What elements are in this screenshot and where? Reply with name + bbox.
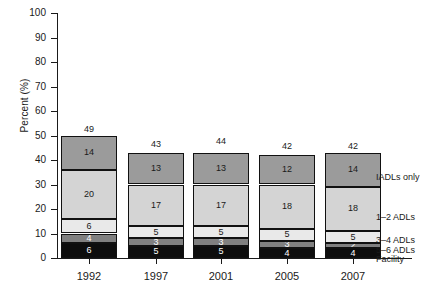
bar-segment-value: 2	[350, 243, 355, 248]
y-axis-tick	[51, 136, 57, 137]
bar-total-label: 44	[193, 137, 249, 146]
bar-total-label: 49	[61, 125, 117, 134]
bar-segment[interactable]: 4	[61, 234, 117, 244]
bar-segment[interactable]: 3	[193, 238, 249, 245]
y-axis-tick	[51, 234, 57, 235]
legend-item: 1–2 ADLs	[376, 212, 415, 222]
bar-segment-value: 14	[348, 165, 358, 174]
bar-segment-value: 3	[218, 238, 223, 245]
bar-segment-value: 5	[153, 228, 158, 237]
bar-segment[interactable]: 2	[325, 243, 381, 248]
bar-segment[interactable]: 3	[128, 238, 184, 245]
bar-segment-value: 4	[284, 249, 289, 258]
bar-segment[interactable]: 3	[259, 241, 315, 248]
bar-segment[interactable]: 20	[61, 170, 117, 219]
bar-segment[interactable]: 13	[193, 153, 249, 185]
y-axis-tick-label: 0	[6, 253, 46, 263]
bar-1992[interactable]: 6462014	[61, 13, 117, 258]
bar-2005[interactable]: 4351812	[259, 13, 315, 258]
bar-segment-value: 18	[348, 204, 358, 213]
bar-segment[interactable]: 5	[193, 226, 249, 238]
y-axis-tick-label: 10	[6, 229, 46, 239]
bar-segment-value: 3	[284, 241, 289, 248]
bar-segment[interactable]: 5	[128, 246, 184, 258]
y-axis-tick	[51, 160, 57, 161]
y-axis-tick-label: 70	[6, 82, 46, 92]
y-axis-tick	[51, 13, 57, 14]
y-axis-line	[57, 13, 58, 259]
bar-1997[interactable]: 5351713	[128, 13, 184, 258]
bar-segment[interactable]: 14	[61, 136, 117, 170]
y-axis-tick-label: 60	[6, 106, 46, 116]
bar-segment[interactable]: 4	[325, 248, 381, 258]
x-axis-tick	[221, 258, 222, 264]
x-axis-tick	[287, 258, 288, 264]
bar-segment-value: 5	[284, 230, 289, 239]
x-axis-tick	[353, 258, 354, 264]
bar-segment-value: 6	[86, 222, 91, 231]
legend-item: IADLs only	[376, 172, 420, 182]
bar-segment-value: 4	[350, 249, 355, 258]
x-axis-tick	[89, 258, 90, 264]
y-axis-tick	[51, 258, 57, 259]
y-axis-tick-label: 50	[6, 131, 46, 141]
bar-segment-value: 5	[153, 247, 158, 256]
bar-segment[interactable]: 5	[325, 231, 381, 243]
y-axis-tick-label: 80	[6, 57, 46, 67]
bar-segment-value: 14	[84, 148, 94, 157]
y-axis-tick	[51, 185, 57, 186]
bar-segment[interactable]: 17	[193, 185, 249, 227]
bar-segment-value: 3	[153, 238, 158, 245]
bar-segment[interactable]: 12	[259, 155, 315, 184]
bar-segment[interactable]: 5	[193, 246, 249, 258]
bar-total-label: 42	[325, 142, 381, 151]
bar-segment-value: 12	[282, 165, 292, 174]
y-axis-tick	[51, 38, 57, 39]
x-axis-tick-label: 1992	[59, 270, 119, 282]
bar-segment-value: 17	[216, 201, 226, 210]
bar-segment-value: 18	[282, 202, 292, 211]
legend-item: Facility	[376, 254, 404, 264]
y-axis-tick	[51, 87, 57, 88]
x-axis-tick-label: 1997	[126, 270, 186, 282]
bar-segment-value: 5	[218, 228, 223, 237]
bar-segment-value: 5	[218, 247, 223, 256]
bar-segment-value: 20	[84, 190, 94, 199]
bar-total-label: 43	[128, 140, 184, 149]
bar-2007[interactable]: 4251814	[325, 13, 381, 258]
y-axis-tick-label: 20	[6, 204, 46, 214]
y-axis-tick-label: 100	[6, 8, 46, 18]
bar-segment[interactable]: 4	[259, 248, 315, 258]
bar-segment-value: 13	[151, 164, 161, 173]
x-axis-tick-label: 2005	[257, 270, 317, 282]
bar-segment[interactable]: 13	[128, 153, 184, 185]
bar-segment[interactable]: 14	[325, 153, 381, 187]
x-axis-line	[57, 258, 412, 259]
y-axis-tick-label: 90	[6, 33, 46, 43]
bar-segment[interactable]: 18	[259, 185, 315, 229]
bar-segment-value: 17	[151, 201, 161, 210]
bar-segment-value: 6	[86, 246, 91, 255]
y-axis-tick-label: 30	[6, 180, 46, 190]
bar-total-label: 42	[259, 142, 315, 151]
bar-segment[interactable]: 5	[259, 229, 315, 241]
stacked-bar-chart: Percent (%) 0102030405060708090100 19921…	[0, 0, 426, 292]
bar-segment[interactable]: 17	[128, 185, 184, 227]
bar-segment-value: 5	[350, 233, 355, 242]
y-axis-tick	[51, 111, 57, 112]
bar-segment[interactable]: 6	[61, 243, 117, 258]
y-axis-tick	[51, 62, 57, 63]
bar-segment-value: 4	[86, 234, 91, 243]
bar-segment[interactable]: 18	[325, 187, 381, 231]
x-axis-tick-label: 2007	[323, 270, 383, 282]
legend-item: 3–4 ADLs	[376, 235, 415, 245]
y-axis-tick	[51, 209, 57, 210]
y-axis-tick-label: 40	[6, 155, 46, 165]
bar-segment-value: 13	[216, 164, 226, 173]
x-axis-tick-label: 2001	[191, 270, 251, 282]
bar-segment[interactable]: 6	[61, 219, 117, 234]
bar-segment[interactable]: 5	[128, 226, 184, 238]
x-axis-tick	[156, 258, 157, 264]
